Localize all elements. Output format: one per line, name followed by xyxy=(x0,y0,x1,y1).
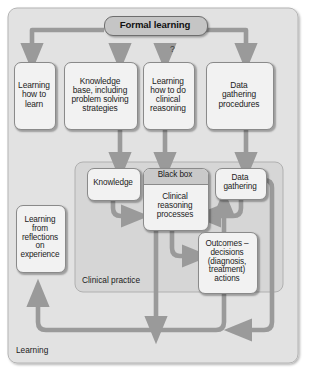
node-learning-from-reflections[interactable] xyxy=(16,205,66,273)
node-data-gathering[interactable] xyxy=(215,168,267,200)
node-black-box-header-band xyxy=(144,169,208,185)
node-knowledge[interactable] xyxy=(87,168,141,201)
node-knowledge-base[interactable] xyxy=(64,62,138,130)
node-formal-learning[interactable] xyxy=(104,16,208,36)
node-outcomes[interactable] xyxy=(198,232,258,294)
outer-panel-label: Learning xyxy=(16,345,48,355)
question-mark-annotation: ? xyxy=(170,44,175,54)
node-data-gathering-procedures[interactable] xyxy=(206,62,274,130)
clinical-practice-panel-label: Clinical practice xyxy=(82,275,140,285)
node-black-box[interactable] xyxy=(143,168,209,231)
node-learning-how-to-learn[interactable] xyxy=(14,62,56,130)
diagram-canvas: Formal learning ? Learning how to learn … xyxy=(0,0,310,380)
node-learning-clinical-reasoning[interactable] xyxy=(143,62,195,130)
